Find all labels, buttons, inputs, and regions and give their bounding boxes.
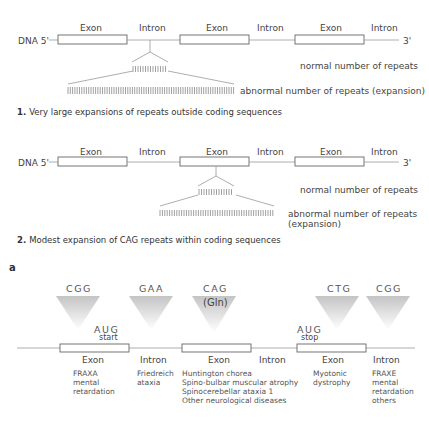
codon-label: CTG [327,283,351,294]
segment-label: Intron [139,147,166,157]
diseases-intron3: FRAXE mental retardation others [372,369,414,405]
svg-text:mental: mental [73,378,99,387]
svg-text:dystrophy: dystrophy [313,378,351,387]
diseases-exon1: FRAXA mental retardation [73,369,115,396]
segment-label: Exon [82,355,104,365]
svg-text:ataxia: ataxia [137,378,160,387]
svg-text:FRAXA: FRAXA [73,369,98,378]
panel-2: DNA 5' 3' Exon Intron Exon Intron Exon I… [17,147,418,245]
abnormal-repeats-label: abnormal number of repeats [288,209,417,219]
panel-3: CGG GAA CAG (Gln) CTG CGG AUG start AUG … [17,283,415,405]
segment-label: Intron [257,23,284,33]
dna-3-label: 3' [403,36,411,46]
exon-box [58,35,127,44]
aug-stop-label: stop [301,333,318,342]
abnormal-repeats-ticks [160,210,273,216]
svg-text:Spinocerebellar ataxia 1: Spinocerebellar ataxia 1 [182,387,273,396]
segment-label: Intron [371,147,398,157]
funnel-cgg-2 [366,296,410,330]
exon-box [182,344,251,352]
codon-label: CGG [376,283,402,294]
segment-label: Exon [206,23,228,33]
exon-box [295,35,364,44]
codon-label: CAG [203,283,228,294]
diseases-intron1: Friedreich ataxia [137,369,174,387]
diseases-exon2: Huntington chorea Spino-bulbar muscular … [182,369,299,405]
svg-text:others: others [372,396,396,405]
svg-text:Myotonic: Myotonic [313,369,347,378]
segment-label: Intron [139,23,166,33]
exon-box [180,35,249,44]
dna-5-label: DNA 5' [18,158,49,168]
codon-label: CGG [66,283,92,294]
codon-label: GAA [139,283,164,294]
segment-label: Exon [322,355,344,365]
svg-text:FRAXE: FRAXE [372,369,396,378]
svg-text:Other neurological diseases: Other neurological diseases [182,396,286,405]
segment-label: Exon [208,355,230,365]
segment-label: Intron [259,355,286,365]
segment-label: Exon [80,23,102,33]
abnormal-repeats-label-line2: (expansion) [288,219,341,229]
segment-label: Exon [80,147,102,157]
normal-repeats-ticks [199,189,232,195]
segment-label: Intron [257,147,284,157]
exon-box [297,344,366,352]
segment-label: Exon [206,147,228,157]
normal-repeats-label: normal number of repeats [300,61,418,71]
exon-box [58,157,127,166]
segment-label: Intron [373,355,400,365]
aug-start-label: start [99,333,118,342]
exon-box [180,157,249,166]
svg-text:Spino-bulbar muscular atrophy: Spino-bulbar muscular atrophy [182,378,299,387]
dna-5-label: DNA 5' [18,36,49,46]
normal-repeats-label: normal number of repeats [300,185,418,195]
dna-3-label: 3' [403,158,411,168]
svg-text:mental: mental [372,378,398,387]
caption-1: 1.Very large expansions of repeats outsi… [17,107,282,117]
svg-text:Huntington chorea: Huntington chorea [182,369,252,378]
segment-label: Intron [371,23,398,33]
caption-2: 2.Modest expansion of CAG repeats within… [17,235,281,245]
funnel-gaa [129,296,173,330]
exon-box [295,157,364,166]
exon-box [60,344,129,352]
segment-label: Intron [140,355,167,365]
svg-text:Friedreich: Friedreich [137,369,174,378]
normal-repeats-ticks [133,66,166,72]
abnormal-repeats-ticks [68,87,234,94]
svg-text:retardation: retardation [372,387,414,396]
diseases-exon3: Myotonic dystrophy [313,369,351,387]
svg-text:retardation: retardation [73,387,115,396]
panel-letter: a [9,262,16,273]
repeat-expansion-diagram: DNA 5' 3' Exon Intron Exon Intron Exon I… [0,0,429,423]
panel-1: DNA 5' 3' Exon Intron Exon Intron Exon I… [17,23,425,117]
segment-label: Exon [320,23,342,33]
abnormal-repeats-label: abnormal number of repeats (expansion) [240,86,425,96]
codon-sub-label: (Gln) [203,297,228,308]
segment-label: Exon [320,147,342,157]
